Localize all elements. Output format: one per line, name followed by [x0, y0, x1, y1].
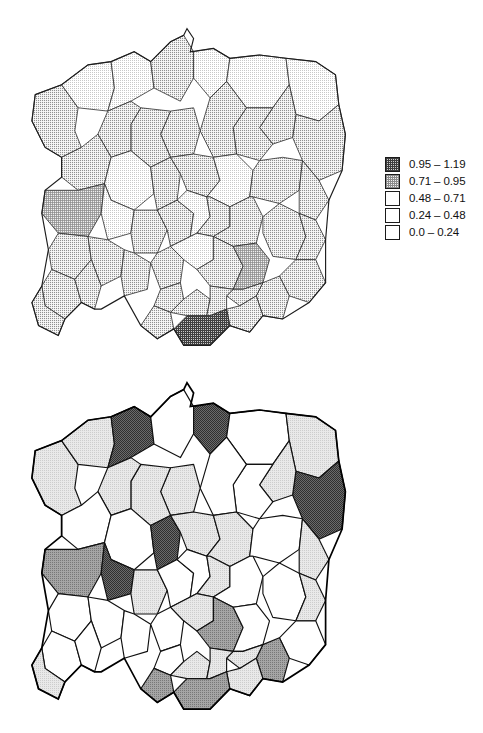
- upper-map-panel: 0.95 – 1.190.71 – 0.950.48 – 0.710.24 – …: [0, 0, 483, 366]
- upper-region-siedlce: [250, 157, 303, 203]
- upper-legend-label: 0.71 – 0.95: [409, 173, 465, 190]
- upper-legend-swatch: [385, 157, 400, 172]
- upper-legend: 0.95 – 1.190.71 – 0.950.48 – 0.710.24 – …: [385, 156, 465, 241]
- upper-legend-row: 0.24 – 0.48: [385, 207, 465, 224]
- lower-region-siedlce: [250, 515, 303, 563]
- upper-legend-label: 0.24 – 0.48: [409, 207, 465, 224]
- upper-legend-row: 0.0 – 0.24: [385, 224, 465, 241]
- upper-legend-row: 0.95 – 1.19: [385, 156, 465, 173]
- lower-region-opole: [121, 611, 151, 659]
- upper-legend-swatch: [385, 225, 400, 240]
- upper-legend-row: 0.48 – 0.71: [385, 190, 465, 207]
- lower-region-zielona-gora: [42, 543, 105, 597]
- upper-legend-swatch: [385, 191, 400, 206]
- upper-legend-swatch: [385, 174, 400, 189]
- upper-legend-label: 0.48 – 0.71: [409, 190, 465, 207]
- lower-region-gdansk: [151, 390, 194, 458]
- upper-legend-swatch: [385, 208, 400, 223]
- lower-poland-map-svg: [0, 366, 483, 733]
- lower-region-group: [32, 390, 346, 710]
- upper-region-group: [32, 35, 346, 345]
- upper-region-gdansk: [151, 35, 194, 101]
- upper-legend-label: 0.0 – 0.24: [409, 224, 459, 241]
- upper-legend-row: 0.71 – 0.95: [385, 173, 465, 190]
- upper-region-zielona-gora: [42, 184, 105, 237]
- upper-legend-label: 0.95 – 1.19: [409, 156, 465, 173]
- upper-region-opole: [121, 250, 151, 296]
- lower-map-panel: ≤ 0.140.14–0.200.20–0.400.40–0.53> 0.53: [0, 366, 483, 733]
